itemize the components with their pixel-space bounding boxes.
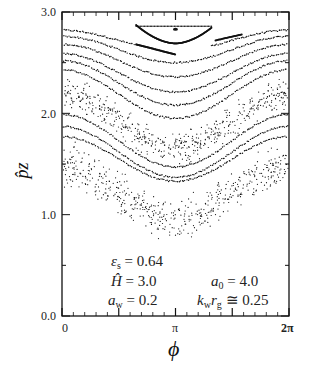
y-tick-label: 3.0 [26, 6, 56, 18]
annot-value: 3.0 [138, 273, 157, 289]
annot-value: 0.64 [137, 253, 163, 269]
annot-sub: w [204, 299, 211, 310]
x-axis-title: ϕ [168, 336, 179, 362]
annotation-a-w: aw = 0.2 [108, 291, 157, 314]
annot-sub: g [217, 299, 222, 310]
plot-frame [62, 12, 289, 316]
x-tick-label: 2π [281, 322, 294, 334]
y-tick-label: 1.0 [26, 209, 56, 221]
y-tick-label: 0.0 [26, 310, 56, 322]
annot-symbol: a [211, 273, 219, 289]
y-axis-title-text: p̂z [12, 162, 32, 178]
annot-sub: s [117, 260, 121, 271]
x-tick-label: π [172, 322, 178, 334]
axis-ticks [62, 12, 289, 316]
data-points [62, 24, 288, 239]
annot-value: 0.2 [139, 292, 158, 308]
annot-sub: 0 [219, 280, 224, 291]
annot-symbol: k [197, 292, 204, 308]
poincare-plot: 3.0 2.0 1.0 0.0 0 π 2π ϕ p̂z εs = 0.64 Ĥ… [0, 0, 310, 366]
annot-sub: w [116, 299, 123, 310]
y-axis-title: p̂z [12, 162, 33, 178]
annotation-h-hat: Ĥ = 3.0 [111, 272, 157, 290]
annot-relation: ≅ [226, 292, 239, 308]
annotation-kw-rg: kwrg ≅ 0.25 [197, 291, 269, 314]
annot-symbol: a [108, 292, 116, 308]
annot-symbol: Ĥ [111, 273, 122, 289]
annot-value: 4.0 [239, 273, 258, 289]
x-tick-label: 0 [62, 322, 68, 334]
y-tick-label: 2.0 [26, 108, 56, 120]
annot-value: 0.25 [242, 292, 268, 308]
